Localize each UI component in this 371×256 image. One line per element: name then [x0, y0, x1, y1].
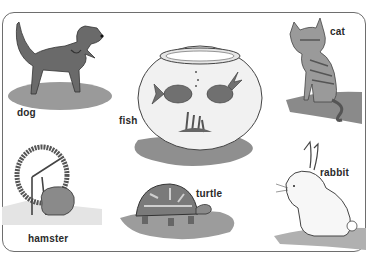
rabbit-label: rabbit — [320, 167, 349, 178]
turtle-label: turtle — [196, 188, 222, 199]
dog-label: dog — [17, 107, 36, 118]
hamster-illustration — [2, 145, 112, 235]
dog-shadow — [8, 82, 112, 110]
fish-label: fish — [119, 115, 138, 126]
rabbit-illustration — [270, 140, 370, 250]
cat-illustration — [270, 14, 370, 124]
hamster-label: hamster — [28, 233, 68, 244]
turtle-illustration — [120, 178, 270, 256]
fish-bowl-illustration — [120, 20, 270, 170]
cat-label: cat — [330, 26, 345, 37]
